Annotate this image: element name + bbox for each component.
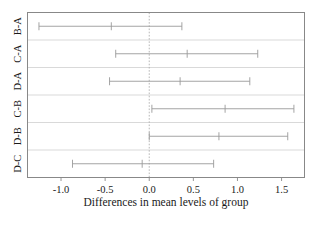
x-axis-title: Differences in mean levels of group — [84, 196, 249, 209]
chart-canvas: -1.0-0.50.00.51.01.5B-AC-AD-AC-BD-BD-CDi… — [0, 0, 315, 225]
y-axis-tick-label: B-A — [12, 17, 23, 36]
interval-row — [72, 160, 213, 168]
y-axis-tick-label: D-C — [12, 155, 23, 173]
x-axis-tick-label: 1.5 — [275, 184, 288, 195]
x-axis-tick-label: 0.5 — [187, 184, 200, 195]
interval-row — [116, 50, 258, 58]
y-axis-tick-label: C-A — [12, 44, 23, 63]
interval-row — [110, 77, 250, 85]
x-axis-tick-label: 1.0 — [231, 184, 244, 195]
y-axis-tick-label: D-B — [12, 127, 23, 145]
tukey-interval-chart: -1.0-0.50.00.51.01.5B-AC-AD-AC-BD-BD-CDi… — [0, 0, 315, 225]
interval-row — [39, 22, 182, 30]
x-axis-tick-label: -1.0 — [53, 184, 70, 195]
y-axis-tick-label: C-B — [12, 100, 23, 118]
y-axis-tick-label: D-A — [12, 72, 23, 91]
interval-row — [152, 105, 294, 113]
x-axis-tick-label: -0.5 — [97, 184, 114, 195]
interval-row — [149, 132, 288, 140]
x-axis-tick-label: 0.0 — [143, 184, 156, 195]
